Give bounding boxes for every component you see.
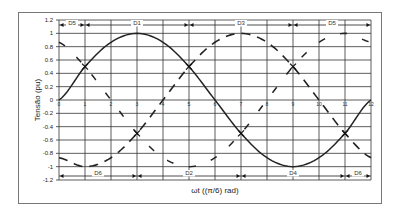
- line-chart: 1.210.80.60.40.20-0.2-0.4-0.6-0.8-1-1.2 …: [0, 0, 399, 214]
- y-tick-label: -1: [48, 164, 54, 170]
- x-tick-label: 0: [58, 101, 61, 107]
- y-tick-label: 0.6: [45, 57, 54, 63]
- y-tick-label: -0.2: [43, 110, 54, 116]
- y-tick-label: 0.8: [45, 44, 54, 50]
- interval-label: D5: [68, 20, 76, 26]
- x-tick-label: 7: [240, 101, 243, 107]
- y-tick-label: -0.4: [43, 124, 54, 130]
- x-tick-label: 11: [342, 101, 347, 107]
- x-tick-label: 3: [136, 101, 139, 107]
- interval-label: D3: [237, 20, 245, 26]
- y-tick-label: -0.8: [43, 150, 54, 156]
- x-tick-label: 1: [84, 101, 87, 107]
- x-tick-label: 10: [316, 101, 322, 107]
- interval-label: D4: [289, 170, 297, 176]
- x-tick-label: 9: [292, 101, 295, 107]
- interval-label: D6: [354, 170, 362, 176]
- y-tick-label: 1.2: [45, 17, 54, 23]
- y-axis-label: Tensão (pu): [33, 79, 42, 122]
- y-tick-label: -1.2: [43, 177, 54, 183]
- x-tick-label: 8: [266, 101, 269, 107]
- interval-label: D2: [185, 170, 193, 176]
- x-tick-label: 5: [188, 101, 191, 107]
- y-tick-label: 0.4: [45, 70, 54, 76]
- x-axis-label: ωt ((π/6) rad): [191, 186, 239, 195]
- x-tick-label: 2: [110, 101, 113, 107]
- interval-label: D6: [94, 170, 102, 176]
- y-tick-label: -0.6: [43, 137, 54, 143]
- interval-label: D5: [328, 20, 336, 26]
- y-tick-label: 0.2: [45, 84, 54, 90]
- chart-frame: [19, 13, 382, 204]
- interval-label: D1: [133, 20, 141, 26]
